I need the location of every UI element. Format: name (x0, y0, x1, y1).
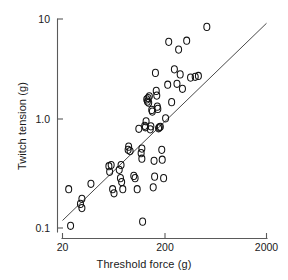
data-point (127, 147, 133, 154)
scatter-plot-figure: 10 1.0 0.1 20 200 2000 Threshold force (… (0, 0, 288, 280)
y-tick-label-0.1: 0.1 (8, 222, 50, 234)
data-point (108, 161, 114, 168)
x-tick-label-200: 200 (144, 241, 186, 253)
data-point (176, 46, 182, 53)
data-point (116, 166, 122, 173)
x-axis-label: Threshold force (g) (0, 258, 288, 270)
x-tick-label-2000: 2000 (245, 241, 288, 253)
data-point (151, 157, 157, 164)
plot-canvas (0, 0, 288, 280)
data-point (77, 200, 83, 207)
data-point (154, 92, 160, 99)
data-point (68, 222, 74, 229)
data-point (152, 69, 158, 76)
data-point (166, 38, 172, 45)
data-point (174, 80, 180, 87)
x-tick-label-20: 20 (42, 241, 83, 253)
data-point (179, 85, 185, 92)
y-tick-label-10: 10 (8, 13, 50, 25)
y-axis-label: Twitch tension (g) (16, 46, 28, 206)
data-point (161, 175, 167, 182)
y-tick-label-1: 1.0 (8, 113, 50, 125)
data-point (136, 125, 142, 132)
data-point (171, 66, 177, 73)
data-point (134, 186, 140, 193)
data-point (88, 180, 94, 187)
data-point (150, 184, 156, 191)
data-point (66, 186, 72, 193)
data-point (159, 156, 165, 163)
data-point (169, 99, 175, 106)
data-point (140, 218, 146, 225)
data-point (79, 205, 85, 212)
data-point (165, 81, 171, 88)
data-point (152, 173, 158, 180)
data-point-group (66, 23, 210, 229)
data-point (139, 145, 145, 152)
data-point (132, 175, 138, 182)
data-point (204, 23, 210, 30)
data-point (118, 161, 124, 168)
data-point (177, 71, 183, 78)
data-point (120, 186, 126, 193)
data-point (184, 37, 190, 44)
data-point (159, 146, 165, 153)
